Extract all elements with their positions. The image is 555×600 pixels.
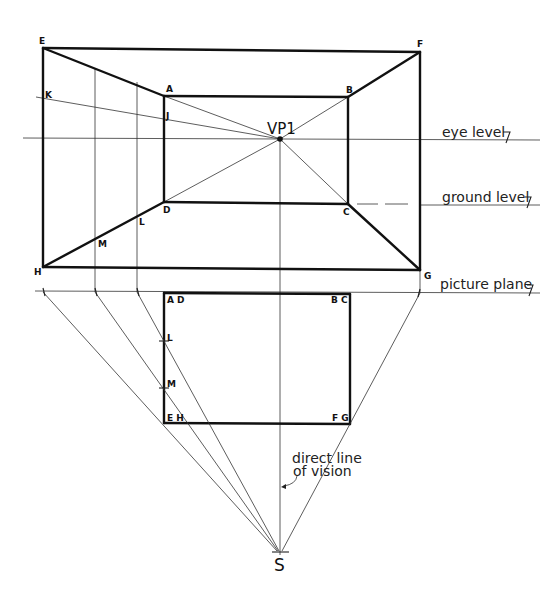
plan-edge-top — [164, 293, 350, 294]
edge-HG — [43, 267, 420, 270]
sight-line-H — [43, 292, 277, 551]
edge-EF — [43, 48, 420, 52]
label-D: D — [163, 205, 170, 215]
label-K: K — [45, 90, 53, 100]
edge-AB — [164, 96, 348, 97]
label-J: J — [165, 111, 169, 121]
edge-DC — [164, 202, 348, 204]
edge-FB — [348, 52, 420, 97]
perspective-diagram: E F A B K J D C L M H G A D B C L M E H … — [0, 0, 555, 600]
label-E: E — [39, 36, 45, 46]
plan-edge-bottom — [164, 423, 350, 424]
plan-label-M: M — [167, 379, 176, 389]
sight-line-M — [95, 292, 278, 551]
picture-plane-label: picture plane — [440, 276, 532, 292]
edge-GC — [348, 204, 420, 270]
ray-vp-to-E — [164, 96, 280, 139]
edge-HD — [43, 202, 164, 267]
label-G: G — [424, 271, 431, 281]
direct-line-label-2: of vision — [293, 463, 352, 479]
label-M: M — [98, 239, 107, 249]
plan-label-EH: E H — [167, 413, 184, 423]
edge-EA — [43, 48, 164, 96]
sight-line-L — [137, 292, 279, 551]
plan-label-BC: B C — [331, 295, 348, 305]
vanishing-point-label: VP1 — [267, 120, 296, 138]
label-C: C — [343, 207, 350, 217]
label-B: B — [346, 85, 353, 95]
label-A: A — [166, 84, 173, 94]
label-H: H — [34, 267, 42, 277]
plan-label-AD: A D — [167, 295, 185, 305]
ground-level-label: ground level — [442, 189, 529, 205]
label-L: L — [139, 217, 145, 227]
ray-vp-to-C — [280, 139, 348, 204]
ray-vp-to-K — [36, 97, 280, 139]
plan-label-L: L — [167, 333, 173, 343]
label-F: F — [417, 39, 423, 49]
arrow-head — [281, 484, 286, 489]
ray-vp-to-D — [164, 139, 280, 202]
station-point-label: S — [274, 555, 285, 575]
plan-label-FG: F G — [332, 413, 349, 423]
eye-level-label: eye level — [442, 124, 505, 140]
